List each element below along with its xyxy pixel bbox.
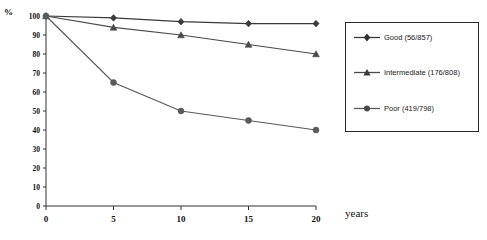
y-tick-label: 80 [33,50,41,59]
y-tick-label: 20 [33,164,41,173]
chart-legend: Good (56/857) Intermediate (176/808) Poo… [345,22,479,132]
x-tick-label: 15 [244,214,254,224]
legend-label-good: Good (56/857) [384,33,432,42]
y-tick-label: 30 [33,145,41,154]
y-tick-label: 40 [33,126,41,135]
legend-item-poor: Poor (419/798) [354,104,434,113]
legend-marker-triangle-icon [354,68,380,77]
legend-marker-circle-icon [354,104,380,113]
y-tick-label: 0 [36,202,40,211]
y-tick-label: 60 [33,88,41,97]
y-tick-label: 10 [33,183,41,192]
legend-label-intermediate: Intermediate (176/808) [384,68,460,77]
chart-figure: % years 010203040506070809010005101520 G… [0,0,487,240]
legend-item-good: Good (56/857) [354,33,432,42]
x-tick-label: 5 [111,214,116,224]
series-diamond [43,13,319,27]
legend-label-poor: Poor (419/798) [384,104,434,113]
x-tick-label: 20 [312,214,322,224]
y-tick-label: 90 [33,31,41,40]
legend-item-intermediate: Intermediate (176/808) [354,68,460,77]
y-tick-label: 70 [33,69,41,78]
series-circle [43,13,319,133]
legend-marker-diamond-icon [354,33,380,42]
y-tick-label: 50 [33,107,41,116]
x-tick-label: 10 [177,214,187,224]
y-tick-label: 100 [29,12,41,21]
x-tick-label: 0 [44,214,49,224]
